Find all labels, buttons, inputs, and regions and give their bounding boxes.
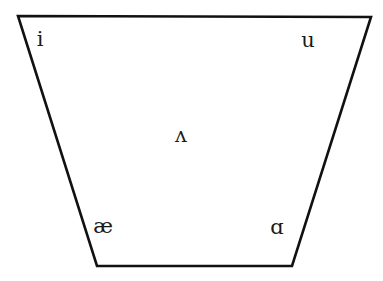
vowel-u-close-back: u bbox=[301, 30, 315, 51]
vowel-script-a-open-back: ɑ bbox=[270, 217, 283, 238]
vowel-wedge-mid-central: ʌ bbox=[175, 125, 187, 146]
vowel-i-close-front: i bbox=[37, 29, 44, 50]
vowel-chart: i u ʌ æ ɑ bbox=[0, 0, 383, 281]
vowel-ae-open-front: æ bbox=[93, 216, 113, 237]
vowel-trapezoid-outline bbox=[0, 0, 383, 281]
